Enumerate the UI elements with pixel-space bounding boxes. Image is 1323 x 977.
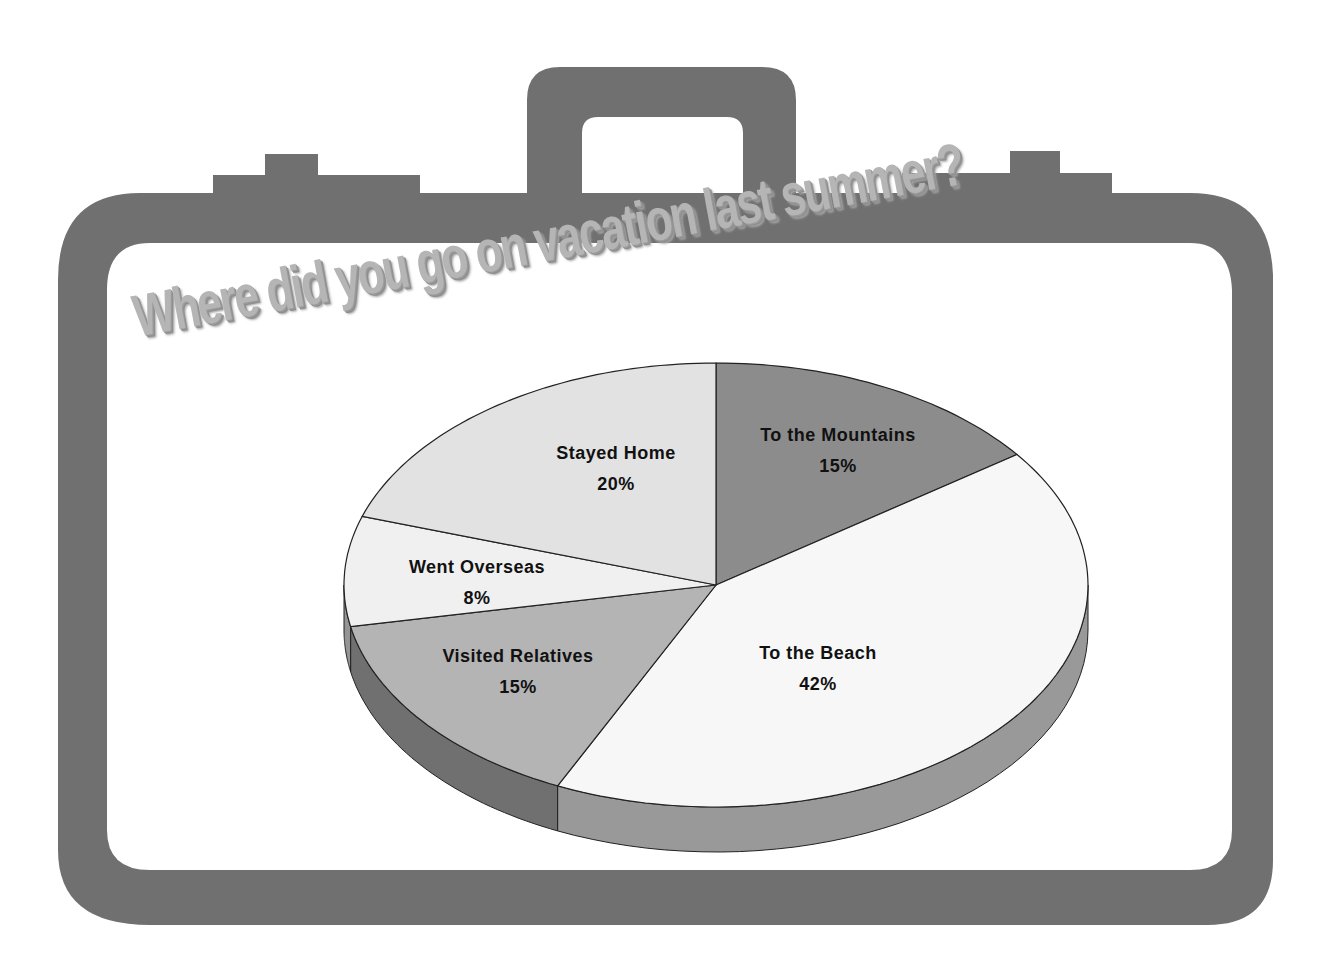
slice-percent: 42%: [759, 669, 877, 700]
slice-name: Went Overseas: [409, 552, 545, 583]
slice-label-relatives: Visited Relatives 15%: [442, 641, 593, 703]
slice-percent: 15%: [442, 672, 593, 703]
slice-label-stayed-home: Stayed Home 20%: [556, 438, 676, 500]
slice-percent: 8%: [409, 583, 545, 614]
slice-name: Visited Relatives: [442, 641, 593, 672]
slice-percent: 20%: [556, 469, 676, 500]
slice-label-mountains: To the Mountains 15%: [760, 420, 916, 482]
slice-percent: 15%: [760, 451, 916, 482]
chart-canvas: Where did you go on vacation last summer…: [0, 0, 1323, 977]
slice-name: Stayed Home: [556, 438, 676, 469]
slice-name: To the Beach: [759, 638, 877, 669]
slice-name: To the Mountains: [760, 420, 916, 451]
slice-label-overseas: Went Overseas 8%: [409, 552, 545, 614]
slice-label-beach: To the Beach 42%: [759, 638, 877, 700]
